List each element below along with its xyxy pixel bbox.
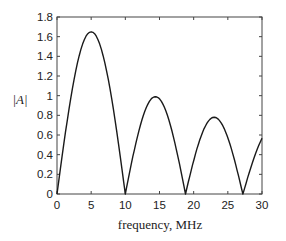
y-tick-label: 1.4 — [37, 50, 54, 62]
x-tick-label: 5 — [88, 199, 94, 211]
y-tick-label: 0.6 — [37, 129, 53, 141]
x-tick-label: 30 — [256, 199, 269, 211]
line-chart: 00.20.40.60.811.21.41.61.8 051015202530 … — [0, 0, 286, 241]
x-tick-label: 0 — [54, 199, 60, 211]
x-tick-label: 15 — [153, 199, 166, 211]
y-tick-label: 1 — [47, 90, 53, 102]
x-tick-label: 10 — [119, 199, 132, 211]
y-tick-label: 0.4 — [37, 149, 54, 161]
y-tick-label: 1.2 — [37, 70, 53, 82]
x-axis-label: frequency, MHz — [118, 217, 203, 232]
x-tick-label: 20 — [187, 199, 200, 211]
y-tick-label: 0 — [47, 188, 53, 200]
y-axis-label: |A| — [12, 92, 27, 107]
y-tick-label: 0.2 — [37, 168, 53, 180]
y-tick-label: 0.8 — [37, 109, 53, 121]
y-tick-label: 1.8 — [37, 11, 53, 23]
y-tick-label: 1.6 — [37, 31, 53, 43]
x-tick-label: 25 — [221, 199, 234, 211]
plot-area — [57, 17, 262, 194]
